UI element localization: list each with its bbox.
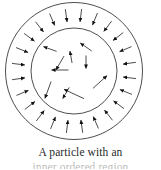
inner-arrow-1 (80, 43, 91, 51)
inner-arrow-7 (63, 87, 70, 98)
outer-ring-arrow-12 (81, 120, 83, 133)
inner-arrow-9 (56, 56, 64, 70)
outer-ring-arrow-18 (12, 78, 25, 80)
particle-arrow-field-diagram (0, 0, 161, 145)
figure-caption: A particle with an inner ordered region (0, 145, 161, 169)
circle-outlines (6, 3, 143, 140)
inner-arrow-0 (43, 47, 56, 52)
outer-ring-arrow-8 (120, 90, 132, 95)
outer-ring-arrow-5 (120, 47, 132, 52)
figure-container (0, 0, 161, 145)
outer-ring-arrow-7 (123, 77, 136, 79)
inner-arrow-2 (70, 51, 72, 63)
outer-ring-arrow-9 (114, 101, 124, 109)
caption-line-1: A particle with an (0, 145, 161, 160)
outer-ring-arrow-22 (36, 22, 44, 32)
outer-ring-arrow-17 (16, 90, 28, 95)
outer-ring-arrow-6 (123, 62, 136, 64)
outer-circle (6, 3, 143, 140)
outer-ring-arrow-3 (104, 21, 112, 31)
outer-ring-arrow-0 (65, 9, 67, 22)
outer-ring-arrow-11 (93, 117, 98, 129)
inner-circle (31, 28, 117, 114)
outer-ring-arrow-4 (113, 33, 123, 41)
inner-region-arrow-group (43, 43, 107, 99)
outer-ring-arrow-14 (51, 117, 56, 129)
outer-ring-arrow-1 (80, 9, 82, 22)
outer-ring-arrow-20 (16, 48, 28, 53)
inner-arrow-6 (45, 82, 51, 99)
inner-arrow-5 (93, 76, 107, 89)
outer-ring-arrow-13 (66, 120, 68, 133)
outer-ring-arrow-2 (93, 13, 98, 25)
outer-ring-arrow-23 (50, 13, 55, 25)
outer-ring-arrow-10 (104, 110, 112, 120)
outer-ring-arrow-15 (36, 111, 44, 121)
outer-ring-arrow-16 (25, 101, 35, 109)
outer-ring-arrow-21 (24, 33, 34, 41)
caption-line-2-clipped: inner ordered region (0, 160, 161, 169)
outer-ring-arrow-19 (12, 63, 25, 65)
inner-arrow-8 (64, 89, 84, 98)
